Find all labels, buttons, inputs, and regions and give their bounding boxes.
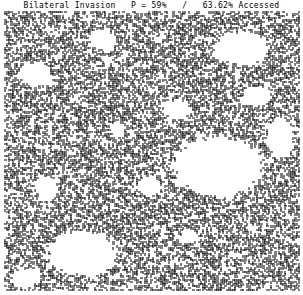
percolation-cluster-canvas bbox=[4, 11, 300, 291]
percolation-plot bbox=[4, 11, 300, 291]
